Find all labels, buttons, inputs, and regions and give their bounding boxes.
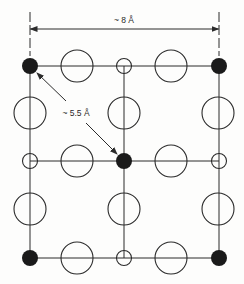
dark-atom-icon	[211, 58, 227, 74]
diagonal-dimension: ~ 5.5 Å	[37, 73, 117, 154]
crystal-lattice-diagram: ~ 8 Å	[0, 0, 244, 284]
dark-atom-icon	[116, 153, 132, 169]
large-atom-icon	[202, 97, 234, 129]
diagonal-arrow-upper-icon	[37, 73, 66, 101]
large-atom-icon	[202, 193, 234, 225]
dark-atom-icon	[22, 58, 38, 74]
diagonal-distance-label: ~ 5.5 Å	[62, 108, 90, 118]
dark-atom-icon	[22, 250, 38, 266]
width-dimension: ~ 8 Å	[30, 12, 219, 56]
lattice-width-label: ~ 8 Å	[114, 15, 134, 25]
diagonal-arrow-lower-icon	[86, 123, 117, 154]
dark-atom-icon	[211, 250, 227, 266]
